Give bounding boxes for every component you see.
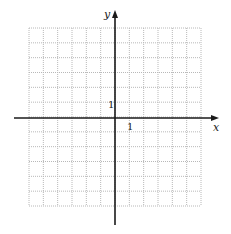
y-axis-arrow-icon (112, 10, 118, 18)
y-unit-label: 1 (108, 99, 114, 110)
y-axis-label: y (103, 8, 111, 21)
coordinate-plane: x y 1 1 (0, 0, 231, 234)
x-axis (14, 115, 219, 121)
x-axis-label: x (213, 121, 220, 134)
x-unit-label: 1 (127, 121, 133, 132)
